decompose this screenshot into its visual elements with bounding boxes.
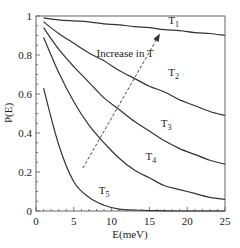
y-tick-label: 0.4 — [18, 127, 32, 139]
arrowhead-icon — [153, 34, 160, 42]
plot-border — [36, 16, 225, 211]
curve-label-t3: T3 — [161, 117, 172, 132]
curve-labels: T1T2T3T4T5 — [99, 14, 179, 200]
y-tick-label: 0.6 — [18, 88, 32, 100]
x-axis-label: E(meV) — [112, 228, 148, 241]
x-tick-label: 5 — [71, 215, 77, 227]
curve-label-t4: T4 — [146, 150, 157, 165]
y-tick-label: 1 — [27, 10, 33, 22]
chart: 051015202500.20.40.60.81 T1T2T3T4T5 Incr… — [0, 0, 240, 248]
curve-label-t5: T5 — [99, 184, 110, 199]
annotation-text: Increase in T — [96, 47, 153, 59]
x-tick-label: 0 — [33, 215, 39, 227]
curve-label-t2: T2 — [168, 66, 179, 81]
x-tick-label: 25 — [220, 215, 232, 227]
curve-t1 — [44, 18, 225, 36]
plot-frame — [36, 16, 225, 211]
y-tick-label: 0.8 — [18, 49, 32, 61]
x-tick-label: 10 — [106, 215, 118, 227]
increase-in-t-annotation: Increase in T — [83, 34, 160, 169]
y-tick-label: 0 — [27, 205, 33, 217]
curve-t2 — [44, 22, 225, 116]
y-axis-label: P(E) — [2, 103, 15, 124]
y-tick-label: 0.2 — [18, 166, 32, 178]
x-tick-label: 20 — [182, 215, 194, 227]
x-tick-label: 15 — [144, 215, 156, 227]
